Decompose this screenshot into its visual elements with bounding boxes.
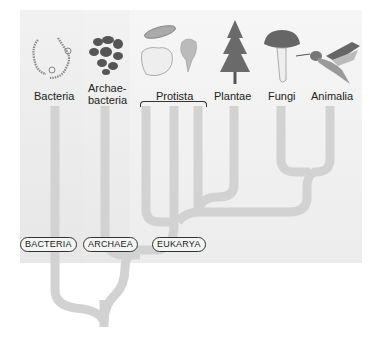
organism-label-plantae: Plantae [214,90,251,102]
protista-bracket [140,101,207,107]
branch-archaea [105,106,140,255]
protists-icon [138,20,200,82]
organism-label-archaebacteria-line2: bacteria [88,94,127,106]
organism-label-fungi: Fungi [268,90,296,102]
bacteria-chain-icon [28,28,78,84]
organism-label-bacteria: Bacteria [34,90,74,102]
branch-plantae [198,106,234,212]
domain-label-archaea: ARCHAEA [83,237,138,252]
archaebacteria-cells-icon [86,32,128,76]
conifer-tree-icon [218,18,252,86]
organism-label-animalia: Animalia [311,90,353,102]
organism-label-archaebacteria-line1: Archae- [88,82,127,94]
hummingbird-icon [296,40,368,86]
domain-label-eukarya: EUKARYA [152,237,206,252]
domain-label-bacteria: BACTERIA [20,237,77,252]
branch-bacteria [55,106,104,322]
branch-fungi [281,106,310,172]
